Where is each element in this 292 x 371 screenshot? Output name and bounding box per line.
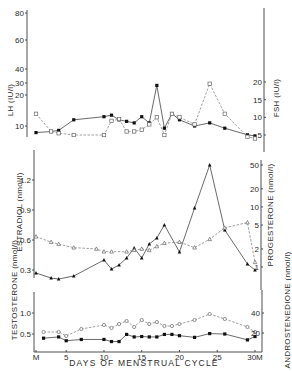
left-tick-label: 10 — [15, 122, 24, 131]
androstenedione-data-point — [57, 330, 60, 333]
testosterone-data-point — [155, 335, 158, 338]
x-tick-label: 5 — [64, 353, 69, 362]
androstenedione-data-point — [193, 318, 196, 321]
testosterone-data-point — [102, 338, 105, 341]
testosterone-data-point — [80, 338, 83, 341]
testosterone-data-point — [170, 333, 173, 336]
fsh-data-point — [49, 130, 52, 133]
left-tick-label: 40 — [15, 65, 24, 74]
progesterone-data-point — [34, 235, 38, 238]
fsh-data-point — [223, 112, 226, 115]
androstenedione-data-point — [102, 323, 105, 326]
right-tick-label: 1 — [255, 263, 260, 272]
androstenedione-data-point — [80, 327, 83, 330]
lh-data-point — [140, 115, 143, 118]
testosterone-data-point — [133, 335, 136, 338]
fsh-data-point — [117, 117, 120, 120]
fsh-data-point — [110, 119, 113, 122]
lh-data-point — [125, 120, 128, 123]
fsh-data-point — [132, 130, 135, 133]
progesterone-data-point — [155, 244, 159, 247]
testosterone-data-point — [42, 337, 45, 340]
androstenedione-data-point — [140, 318, 143, 321]
menstrual-cycle-hormone-chart: 10203040608051015200.30.60.91.2125102050… — [0, 0, 292, 371]
testosterone-data-point — [117, 340, 120, 343]
lh-data-point — [155, 84, 158, 87]
right-tick-label: 20 — [253, 78, 262, 87]
left-tick-label: 20 — [15, 91, 24, 100]
right-tick-label: 10 — [253, 113, 262, 122]
progesterone-data-point — [57, 242, 61, 245]
progesterone-data-point — [110, 250, 114, 253]
left-tick-label: 30 — [15, 79, 24, 88]
progesterone-data-point — [193, 246, 197, 249]
testosterone-data-point — [208, 332, 211, 335]
testosterone-data-point — [57, 335, 60, 338]
lh-data-point — [163, 127, 166, 130]
left-tick-label: 0.5 — [20, 330, 32, 339]
x-tick-label: 30M — [247, 353, 263, 362]
androstenedione-data-point — [65, 334, 68, 337]
androstenedione-data-point — [117, 322, 120, 325]
right-tick-label: 20 — [251, 329, 260, 338]
lh-data-point — [102, 115, 105, 118]
lh-data-point — [110, 114, 113, 117]
androstenedione-data-point — [110, 326, 113, 329]
fsh-data-point — [178, 116, 181, 119]
estradiol-axis-label: ESTRADIOL (nmol/l) — [15, 172, 24, 251]
progesterone-data-point — [95, 247, 99, 250]
lh-axis-label: LH (IU/l) — [6, 84, 15, 117]
testosterone-data-point — [148, 335, 151, 338]
testosterone-data-point — [110, 340, 113, 343]
fsh-data-point — [72, 133, 75, 136]
estradiol-data-point — [102, 258, 106, 261]
estradiol-data-point — [163, 223, 167, 226]
testosterone-data-point — [163, 333, 166, 336]
lh-data-point — [133, 121, 136, 124]
progesterone-line — [36, 223, 255, 263]
progesterone-data-point — [178, 240, 182, 243]
androstenedione-data-point — [148, 322, 151, 325]
testosterone-data-point — [140, 335, 143, 338]
androstenedione-data-point — [178, 322, 181, 325]
x-tick-label: M — [33, 353, 40, 362]
right-tick-label: 2 — [255, 245, 260, 254]
fsh-data-point — [125, 130, 128, 133]
androstenedione-data-point — [133, 325, 136, 328]
lh-data-point — [223, 127, 226, 130]
fsh-data-point — [253, 137, 256, 140]
fsh-data-point — [208, 82, 211, 85]
fsh-data-point — [193, 123, 196, 126]
chart-axes — [25, 8, 266, 352]
testosterone-axis-label: TESTOSTERONE (nmol/l) — [10, 240, 19, 340]
fsh-data-point — [155, 116, 158, 119]
left-tick-label: 60 — [15, 36, 24, 45]
fsh-data-point — [57, 132, 60, 135]
androstenedione-data-point — [155, 320, 158, 323]
left-tick-label: 1.0 — [20, 309, 32, 318]
tick-labels: 10203040608051015200.30.60.91.2125102050… — [15, 9, 263, 362]
progesterone-data-point — [163, 241, 167, 244]
progesterone-data-point — [140, 247, 144, 250]
right-tick-label: 15 — [253, 96, 262, 105]
lh-line — [36, 85, 255, 135]
testosterone-data-point — [223, 332, 226, 335]
lh-data-point — [72, 118, 75, 121]
x-axis-label: DAYS OF MENSTRUAL CYCLE — [69, 358, 218, 368]
fsh-data-point — [34, 112, 37, 115]
right-tick-label: 5 — [258, 131, 263, 140]
progesterone-data-point — [72, 246, 76, 249]
testosterone-data-point — [178, 334, 181, 337]
left-tick-label: 0.3 — [20, 266, 32, 275]
fsh-data-point — [170, 112, 173, 115]
progesterone-data-point — [246, 221, 250, 224]
fsh-data-point — [140, 128, 143, 131]
right-tick-label: 10 — [250, 203, 259, 212]
androstenedione-data-point — [170, 324, 173, 327]
fsh-data-point — [163, 133, 166, 136]
testosterone-data-point — [246, 338, 249, 341]
lh-data-point — [208, 121, 211, 124]
fsh-line — [36, 84, 255, 139]
fsh-data-point — [102, 133, 105, 136]
progesterone-data-point — [49, 240, 53, 243]
